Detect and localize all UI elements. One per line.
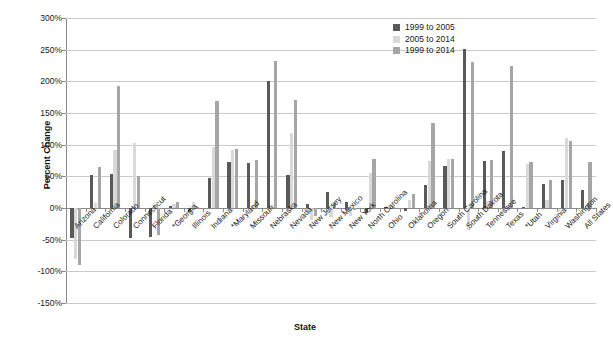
- bar: [502, 151, 505, 208]
- bar: [542, 184, 545, 208]
- bar: [404, 208, 407, 211]
- bar: [98, 167, 101, 208]
- bar: [133, 143, 136, 208]
- y-axis-tick-label: 200%: [28, 77, 62, 86]
- bar: [227, 162, 230, 208]
- bar: [451, 159, 454, 208]
- bar: [274, 61, 277, 208]
- bar: [372, 159, 375, 208]
- legend-item: 1999 to 2005: [393, 22, 455, 34]
- bar: [172, 204, 175, 208]
- bar: [208, 178, 211, 208]
- legend-item: 1999 to 2014: [393, 45, 455, 57]
- y-axis-tick-label: -50%: [28, 236, 62, 245]
- y-axis-tick-label: 0%: [28, 204, 62, 213]
- bar: [545, 200, 548, 208]
- bar: [231, 150, 234, 208]
- bar: [215, 101, 218, 208]
- y-axis-tick-label: 50%: [28, 172, 62, 181]
- y-axis-tick-label: 250%: [28, 46, 62, 55]
- chart-legend: 1999 to 20052005 to 20141999 to 2014: [393, 22, 455, 57]
- y-axis-tick-label: -100%: [28, 267, 62, 276]
- x-axis-title: State: [0, 322, 610, 332]
- legend-label: 2005 to 2014: [405, 34, 455, 46]
- bar: [267, 81, 270, 208]
- bar: [212, 147, 215, 208]
- legend-label: 1999 to 2005: [405, 22, 455, 34]
- bar: [483, 161, 486, 209]
- bar: [529, 162, 532, 208]
- bar: [522, 207, 525, 208]
- y-axis-tick-label: -150%: [28, 299, 62, 308]
- bar: [235, 149, 238, 208]
- bar: [247, 163, 250, 208]
- bar: [549, 180, 552, 209]
- bar: [117, 86, 120, 208]
- bar: [526, 164, 529, 208]
- bar: [463, 49, 466, 208]
- bar: [290, 133, 293, 208]
- legend-swatch-icon: [393, 24, 400, 31]
- x-axis-tick: [400, 208, 401, 212]
- bar: [137, 176, 140, 208]
- bar: [561, 180, 564, 208]
- legend-label: 1999 to 2014: [405, 45, 455, 57]
- bar: [412, 194, 415, 208]
- legend-item: 2005 to 2014: [393, 34, 455, 46]
- y-axis-tick-label: 300%: [28, 14, 62, 23]
- bar: [408, 200, 411, 208]
- legend-swatch-icon: [393, 36, 400, 43]
- bar: [90, 175, 93, 208]
- bar: [510, 66, 513, 208]
- bar: [569, 141, 572, 208]
- y-axis-tick-label: 100%: [28, 141, 62, 150]
- bar: [176, 202, 179, 208]
- bar: [565, 138, 568, 208]
- bar: [431, 123, 434, 209]
- legend-swatch-icon: [393, 47, 400, 54]
- bar: [447, 159, 450, 208]
- bar: [443, 166, 446, 208]
- x-axis-labels: ArizonaCaliforniaColoradoConnecticutFlor…: [66, 223, 596, 313]
- y-axis-tick-label: 150%: [28, 109, 62, 118]
- bar: [471, 62, 474, 208]
- bar: [294, 100, 297, 208]
